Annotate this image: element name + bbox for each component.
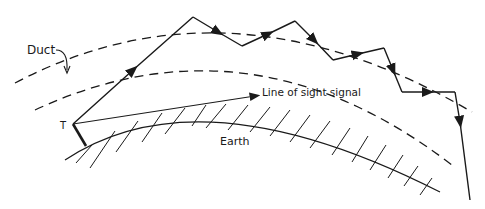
duct-diagram: Duct Line of sight signal Earth T — [0, 0, 485, 209]
ducted-ray-path — [73, 17, 470, 200]
earth-hatching — [76, 104, 432, 195]
line-of-sight-label: Line of sight signal — [262, 86, 361, 98]
transmitter-label: T — [59, 120, 67, 131]
duct-label: Duct — [27, 43, 55, 57]
inner-duct-boundary — [35, 71, 452, 165]
transmitter-antenna — [73, 124, 86, 146]
earth-label: Earth — [220, 135, 250, 148]
earth-surface — [65, 122, 440, 192]
